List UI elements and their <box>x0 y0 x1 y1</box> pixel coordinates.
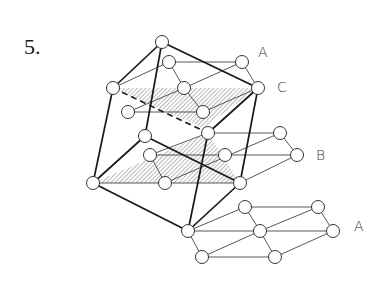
figure: 5. A C B A <box>0 0 384 284</box>
shaded-plane-lower <box>93 133 240 183</box>
crystal-lattice-diagram <box>0 0 384 284</box>
unit-cell-edges <box>93 42 258 231</box>
